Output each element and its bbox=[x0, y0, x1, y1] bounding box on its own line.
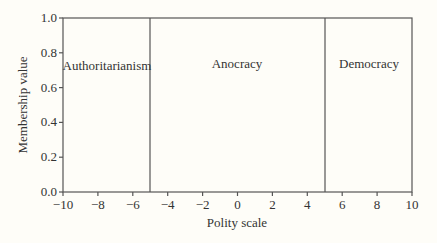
region-label-authoritarianism: Authoritarianism bbox=[63, 58, 152, 73]
x-tick-label: −4 bbox=[161, 197, 175, 212]
y-tick-label: 0.4 bbox=[41, 114, 58, 129]
region-label-democracy: Democracy bbox=[339, 56, 399, 71]
x-axis: −10−8−6−4−20246810 bbox=[53, 192, 419, 212]
x-tick-label: 6 bbox=[339, 197, 346, 212]
region-label-anocracy: Anocracy bbox=[212, 56, 263, 71]
chart: 0.00.20.40.60.81.0 −10−8−6−4−20246810 Au… bbox=[0, 0, 437, 243]
y-tick-label: 1.0 bbox=[41, 10, 57, 25]
x-tick-label: −8 bbox=[91, 197, 105, 212]
y-axis: 0.00.20.40.60.81.0 bbox=[41, 10, 63, 199]
x-tick-label: 10 bbox=[406, 197, 419, 212]
y-tick-label: 0.8 bbox=[41, 45, 57, 60]
x-tick-label: 2 bbox=[269, 197, 276, 212]
y-axis-label: Membership value bbox=[15, 56, 30, 153]
y-tick-label: 0.2 bbox=[41, 149, 57, 164]
x-tick-label: 4 bbox=[304, 197, 311, 212]
x-tick-label: −2 bbox=[196, 197, 210, 212]
x-tick-label: 8 bbox=[374, 197, 381, 212]
x-axis-label: Polity scale bbox=[207, 215, 268, 230]
x-tick-label: 0 bbox=[234, 197, 241, 212]
y-tick-label: 0.6 bbox=[41, 80, 58, 95]
x-tick-label: −10 bbox=[53, 197, 73, 212]
plot-area bbox=[63, 18, 412, 192]
x-tick-label: −6 bbox=[126, 197, 140, 212]
